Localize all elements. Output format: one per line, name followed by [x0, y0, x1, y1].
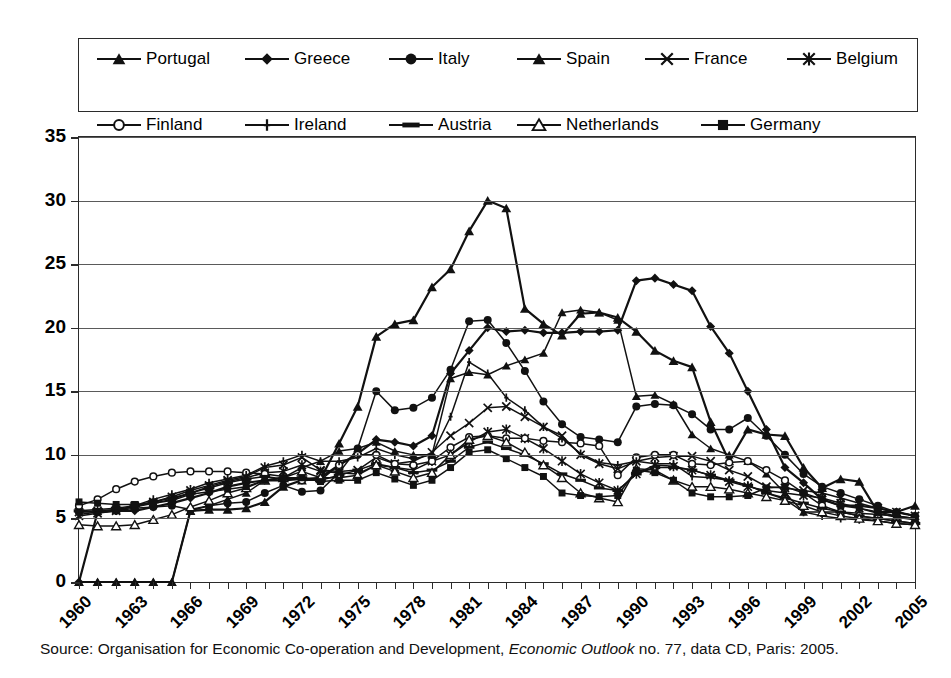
data-point-filled-square	[243, 483, 250, 490]
data-point-asterisk	[577, 469, 585, 479]
data-point-filled-square	[800, 490, 807, 497]
legend-symbol-dash	[401, 115, 421, 135]
gridline-y-20	[79, 328, 915, 329]
x-tick-label: 1969	[212, 592, 263, 643]
legend-item-germany[interactable]: Germany	[701, 115, 821, 135]
y-tick-mark	[71, 264, 79, 266]
legend-marker-dash	[389, 117, 433, 133]
data-point-filled-triangle	[501, 204, 511, 213]
data-point-open-circle	[206, 468, 213, 475]
legend-label: Ireland	[294, 115, 347, 135]
data-point-open-circle	[540, 438, 547, 445]
legend-item-belgium[interactable]: Belgium	[787, 49, 898, 69]
legend-symbol-filled-triangle	[529, 49, 549, 69]
legend-item-netherlands[interactable]: Netherlands	[517, 115, 659, 135]
data-point-filled-circle	[391, 406, 399, 414]
data-point-filled-circle	[762, 432, 770, 440]
legend-item-portugal[interactable]: Portugal	[97, 49, 210, 69]
data-point-open-circle	[782, 477, 789, 484]
data-point-open-circle	[596, 443, 603, 450]
gridline-y-35	[79, 137, 915, 138]
data-point-filled-square	[206, 488, 213, 495]
data-point-filled-square	[484, 446, 491, 453]
data-point-filled-square	[521, 464, 528, 471]
y-tick-label: 30	[22, 189, 66, 211]
legend-symbol-open-circle	[109, 115, 129, 135]
legend-marker-x-cross	[645, 51, 689, 67]
data-point-dash	[705, 474, 716, 477]
data-point-filled-square	[187, 491, 194, 498]
data-point-filled-circle	[409, 404, 417, 412]
y-tick-mark	[71, 137, 79, 139]
legend-symbol-filled-triangle	[109, 49, 129, 69]
legend-symbol-asterisk	[799, 49, 819, 69]
data-point-dash	[74, 509, 85, 512]
data-point-filled-square	[651, 469, 658, 476]
legend-symbol-plus	[257, 115, 277, 135]
data-point-filled-triangle	[520, 355, 529, 363]
legend-item-greece[interactable]: Greece	[245, 49, 350, 69]
data-point-filled-square	[298, 474, 305, 481]
legend-item-finland[interactable]: Finland	[97, 115, 202, 135]
y-tick-label: 20	[22, 316, 66, 338]
data-point-x-cross	[725, 466, 733, 474]
legend-item-france[interactable]: France	[645, 49, 748, 69]
data-point-filled-circle	[651, 400, 659, 408]
data-point-plus	[541, 423, 545, 431]
x-tick-label: 1960	[45, 592, 96, 643]
data-point-filled-triangle	[688, 430, 697, 438]
legend-marker-filled-circle	[389, 51, 433, 67]
x-tick-label: 2002	[825, 592, 876, 643]
data-point-plus	[523, 406, 527, 414]
data-point-filled-circle	[725, 425, 733, 433]
data-point-filled-triangle	[446, 265, 456, 274]
legend-item-spain[interactable]: Spain	[517, 49, 610, 69]
legend-label: Italy	[438, 49, 470, 69]
legend-item-austria[interactable]: Austria	[389, 115, 492, 135]
data-point-open-triangle	[186, 503, 195, 511]
data-point-open-circle	[522, 435, 529, 442]
data-point-filled-square	[447, 464, 454, 471]
data-point-filled-square	[336, 477, 343, 484]
chart-legend: PortugalGreeceItalySpainFranceBelgium Fi…	[78, 38, 918, 112]
series-austria	[74, 441, 921, 525]
data-point-filled-square	[317, 478, 324, 485]
data-point-filled-square	[707, 493, 714, 500]
data-point-dash	[445, 460, 456, 463]
data-point-filled-circle	[539, 397, 547, 405]
data-point-dash	[594, 486, 605, 489]
data-point-filled-square	[577, 492, 584, 499]
legend-row-2: FinlandIrelandAustriaNetherlandsGermany	[87, 76, 911, 109]
legend-marker-plus	[245, 117, 289, 133]
data-point-filled-diamond	[390, 438, 399, 447]
data-point-filled-square	[280, 474, 287, 481]
series-line	[79, 436, 915, 526]
source-suffix: no. 77, data CD, Paris: 2005.	[634, 640, 838, 657]
data-point-dash	[92, 508, 103, 511]
data-point-dash	[501, 447, 512, 450]
y-tick-label: 5	[22, 506, 66, 528]
source-prefix: Source: Organisation for Economic Co-ope…	[40, 640, 509, 657]
data-point-filled-triangle	[520, 304, 530, 313]
data-point-open-circle	[150, 473, 157, 480]
legend-item-italy[interactable]: Italy	[389, 49, 470, 69]
legend-item-ireland[interactable]: Ireland	[245, 115, 347, 135]
legend-label: Spain	[566, 49, 610, 69]
legend-marker-open-triangle	[517, 117, 561, 133]
data-point-filled-square	[354, 477, 361, 484]
data-point-filled-triangle	[334, 439, 344, 448]
data-point-filled-square	[744, 492, 751, 499]
data-point-filled-circle	[298, 488, 306, 496]
legend-marker-filled-square	[701, 117, 745, 133]
data-point-open-circle	[614, 472, 621, 479]
data-point-filled-square	[781, 483, 788, 490]
data-point-filled-square	[261, 477, 268, 484]
data-point-filled-circle	[261, 489, 269, 497]
data-point-open-circle	[113, 486, 120, 493]
data-point-filled-triangle	[539, 349, 548, 357]
data-point-filled-circle	[484, 316, 492, 324]
x-tick-label: 1999	[770, 592, 821, 643]
data-point-filled-square	[559, 490, 566, 497]
chart-page: PortugalGreeceItalySpainFranceBelgium Fi…	[0, 0, 951, 678]
data-point-dash	[222, 481, 233, 484]
